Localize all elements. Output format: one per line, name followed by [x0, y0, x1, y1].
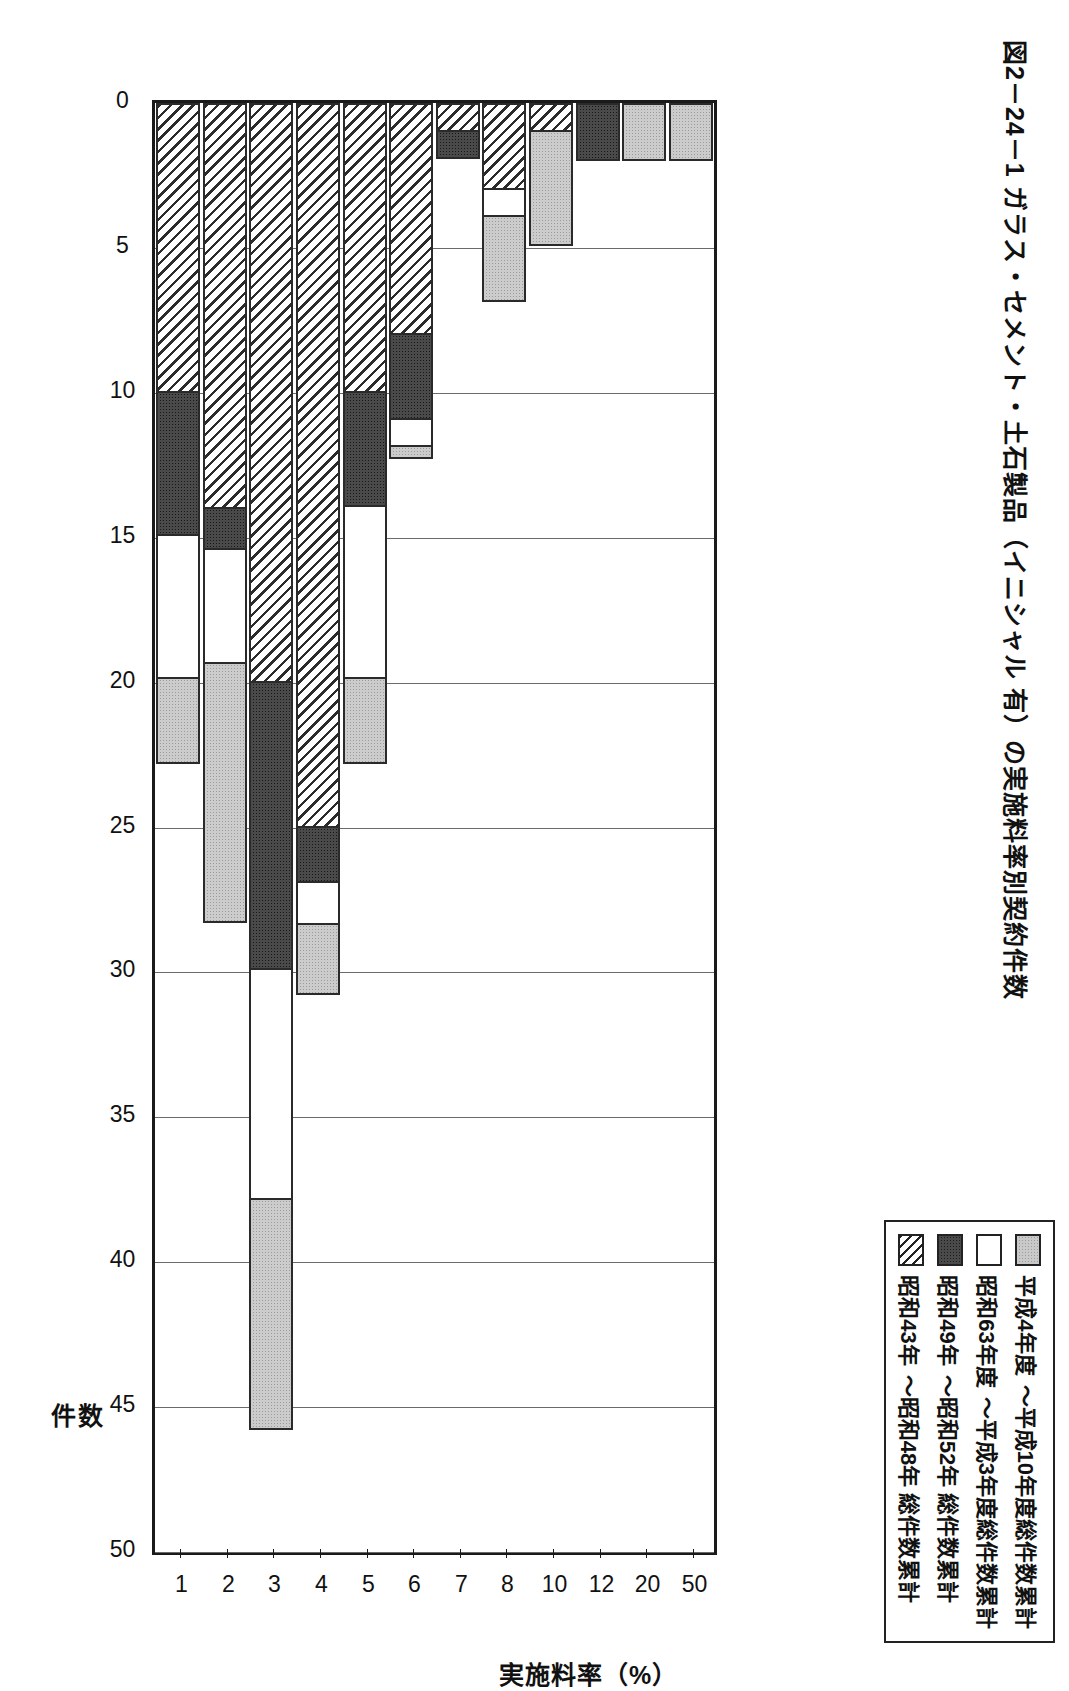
bar-segment	[343, 505, 387, 679]
bar-segment	[529, 130, 573, 246]
x-tick-label-2: 2	[211, 1571, 245, 1598]
gridline	[155, 1262, 714, 1263]
bar-3	[249, 103, 293, 1430]
gridline	[155, 1407, 714, 1408]
x-tick-label-10: 10	[537, 1571, 571, 1598]
bar-segment	[249, 103, 293, 683]
legend-label-3a: 昭和43年	[895, 1275, 927, 1365]
x-tick-label-6: 6	[398, 1571, 432, 1598]
x-tick-label-7: 7	[444, 1571, 478, 1598]
y-tick-label-10: 10	[100, 376, 146, 403]
x-tick	[646, 1549, 647, 1558]
x-tick	[553, 1549, 554, 1558]
bar-segment	[389, 333, 433, 420]
x-tick-label-1: 1	[165, 1571, 199, 1598]
x-tick	[413, 1549, 414, 1558]
x-tick	[506, 1549, 507, 1558]
bar-segment	[249, 681, 293, 971]
legend-label-2a: 昭和49年	[934, 1275, 966, 1365]
legend-swatch-hatch-icon	[898, 1234, 924, 1266]
bar-segment	[436, 130, 480, 159]
legend-label-1b: ～平成3年度総件数累計	[973, 1397, 1005, 1629]
bar-8	[482, 103, 526, 302]
bar-segment	[296, 103, 340, 828]
bar-4	[296, 103, 340, 995]
bar-segment	[296, 826, 340, 884]
x-tick-label-4: 4	[305, 1571, 339, 1598]
bar-6	[389, 103, 433, 459]
bar-12	[576, 103, 620, 161]
bar-segment	[249, 968, 293, 1200]
legend-swatch-dark-dotted-icon	[937, 1234, 963, 1266]
y-tick-label-35: 35	[100, 1101, 146, 1128]
bar-segment	[203, 662, 247, 923]
bar-segment	[482, 103, 526, 190]
bar-segment	[343, 103, 387, 393]
x-tick	[320, 1549, 321, 1558]
x-tick-label-12: 12	[584, 1571, 618, 1598]
y-tick-label-15: 15	[100, 521, 146, 548]
legend-swatch-white-icon	[976, 1234, 1002, 1266]
bar-segment	[529, 103, 573, 132]
x-tick-label-8: 8	[491, 1571, 525, 1598]
chart-plot-area	[152, 100, 717, 1555]
y-tick-label-30: 30	[100, 956, 146, 983]
legend-item-0: 平成4年度 ～平成10年度総件数累計	[1012, 1234, 1044, 1629]
bar-segment	[389, 445, 433, 459]
page-title: 図2－24－1 ガラス・セメント・土石製品（イニシャル 有）の実施料率別契約件数	[999, 40, 1035, 1000]
legend-item-3: 昭和43年 ～昭和48年 総件数累計	[895, 1234, 927, 1629]
x-tick	[367, 1549, 368, 1558]
legend-label-0b: ～平成10年度総件数累計	[1012, 1385, 1044, 1629]
bar-segment	[576, 103, 620, 161]
bar-segment	[296, 923, 340, 995]
bar-segment	[436, 103, 480, 132]
bar-segment	[203, 548, 247, 664]
bar-segment	[203, 103, 247, 509]
bar-segment	[389, 418, 433, 447]
legend-item-2: 昭和49年 ～昭和52年 総件数累計	[934, 1234, 966, 1629]
y-tick-label-40: 40	[100, 1246, 146, 1273]
bar-segment	[156, 391, 200, 536]
chart-legend: 平成4年度 ～平成10年度総件数累計 昭和63年度 ～平成3年度総件数累計 昭和…	[884, 1220, 1055, 1643]
x-tick	[600, 1549, 601, 1558]
x-tick	[693, 1549, 694, 1558]
bar-10	[529, 103, 573, 246]
bar-segment	[343, 391, 387, 507]
x-tick-label-5: 5	[351, 1571, 385, 1598]
legend-label-3b: ～昭和48年 総件数累計	[895, 1375, 927, 1604]
bar-segment	[156, 103, 200, 393]
bar-segment	[203, 507, 247, 550]
bar-segment	[482, 215, 526, 302]
y-tick-label-45: 45	[100, 1391, 146, 1418]
legend-label-2b: ～昭和52年 総件数累計	[934, 1375, 966, 1604]
bar-segment	[156, 677, 200, 764]
x-tick-label-3: 3	[258, 1571, 292, 1598]
bar-2	[203, 103, 247, 923]
y-tick-label-5: 5	[100, 231, 146, 258]
y-tick-label-0: 0	[100, 87, 146, 114]
bar-segment	[482, 188, 526, 217]
gridline	[155, 972, 714, 973]
x-tick	[180, 1549, 181, 1558]
bar-1	[156, 103, 200, 764]
x-axis-title: 実施料率（%）	[499, 1655, 659, 1691]
legend-item-1: 昭和63年度 ～平成3年度総件数累計	[973, 1234, 1005, 1629]
legend-swatch-gray-dotted-icon	[1015, 1234, 1041, 1266]
legend-label-1a: 昭和63年度	[973, 1275, 1005, 1387]
bar-segment	[669, 103, 713, 161]
bar-50	[669, 103, 713, 161]
bar-segment	[156, 534, 200, 679]
x-tick-label-50: 50	[677, 1571, 711, 1598]
bar-segment	[249, 1198, 293, 1430]
bar-7	[436, 103, 480, 159]
x-tick	[227, 1549, 228, 1558]
bar-segment	[296, 881, 340, 924]
bar-segment	[343, 677, 387, 764]
gridline	[155, 1117, 714, 1118]
y-tick-label-20: 20	[100, 666, 146, 693]
gridline	[155, 1552, 714, 1553]
x-tick	[273, 1549, 274, 1558]
bar-segment	[622, 103, 666, 161]
legend-label-0a: 平成4年度	[1012, 1275, 1044, 1375]
bar-20	[622, 103, 666, 161]
